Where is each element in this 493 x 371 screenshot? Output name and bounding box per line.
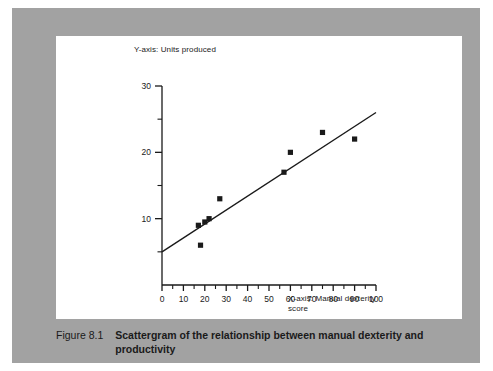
scattergram-plot: 102030 0102030405060708090100 Y-axis: Un… [56,36,462,319]
caption-text: Scattergram of the relationship between … [115,328,433,356]
scatter-point [320,130,325,135]
y-tick-label: 10 [142,214,152,224]
x-tick-label: 20 [200,294,210,304]
y-axis-title: Y-axis: Units produced [134,45,216,54]
figure-white-panel: 102030 0102030405060708090100 Y-axis: Un… [56,36,462,319]
caption-label: Figure 8.1 [56,328,115,342]
figure-gray-frame: 102030 0102030405060708090100 Y-axis: Un… [12,8,480,363]
x-tick-label: 40 [243,294,253,304]
scatter-point [288,150,293,155]
scatter-point [352,136,357,141]
axis-lines [162,86,376,285]
x-tick-label: 0 [160,294,165,304]
scatter-point [281,170,286,175]
y-tick-label: 30 [142,81,152,91]
trendline [162,113,376,252]
trendline-segment [162,113,376,252]
scatter-svg: 102030 0102030405060708090100 [56,36,462,319]
x-tick-label: 10 [179,294,189,304]
y-axis-ticks [155,86,162,252]
scatter-point [198,243,203,248]
figure-caption: Figure 8.1 Scattergram of the relationsh… [56,328,476,356]
x-tick-label: 30 [221,294,231,304]
scatter-point [206,216,211,221]
x-axis-title: X-axis: Manual dexterity score [288,294,398,314]
y-tick-label: 20 [142,147,152,157]
figure-page: 102030 0102030405060708090100 Y-axis: Un… [0,0,493,371]
y-axis-tick-labels: 102030 [142,81,152,224]
x-tick-label: 50 [264,294,274,304]
scatter-point [196,223,201,228]
data-points [196,130,357,248]
scatter-point [217,196,222,201]
caption-row: Figure 8.1 Scattergram of the relationsh… [56,328,476,356]
x-axis-ticks [162,285,376,291]
